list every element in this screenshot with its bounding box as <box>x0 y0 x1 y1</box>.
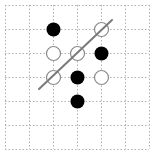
filled-point <box>71 95 85 109</box>
filled-point <box>47 23 61 37</box>
filled-point <box>95 47 109 61</box>
filled-point <box>71 71 85 85</box>
open-point <box>47 47 61 61</box>
open-point <box>47 71 61 85</box>
open-point <box>95 71 109 85</box>
grid-diagram <box>0 0 154 152</box>
